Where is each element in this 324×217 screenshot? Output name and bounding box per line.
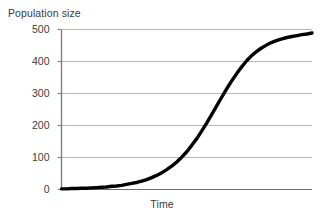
y-tick-label: 0 <box>14 184 50 195</box>
y-tick-label: 200 <box>14 120 50 131</box>
chart-figure: Population size 0100200300400500 Time <box>0 0 324 217</box>
y-tick-label: 400 <box>14 56 50 67</box>
plot-area: 0100200300400500 <box>0 0 324 217</box>
x-axis-title: Time <box>0 198 324 210</box>
series-line <box>62 33 313 189</box>
y-tick-label: 300 <box>14 88 50 99</box>
y-tick-label: 500 <box>14 24 50 35</box>
axis-lines <box>62 30 313 190</box>
gridlines <box>62 30 313 190</box>
data-series <box>62 33 313 189</box>
y-tick-label: 100 <box>14 152 50 163</box>
